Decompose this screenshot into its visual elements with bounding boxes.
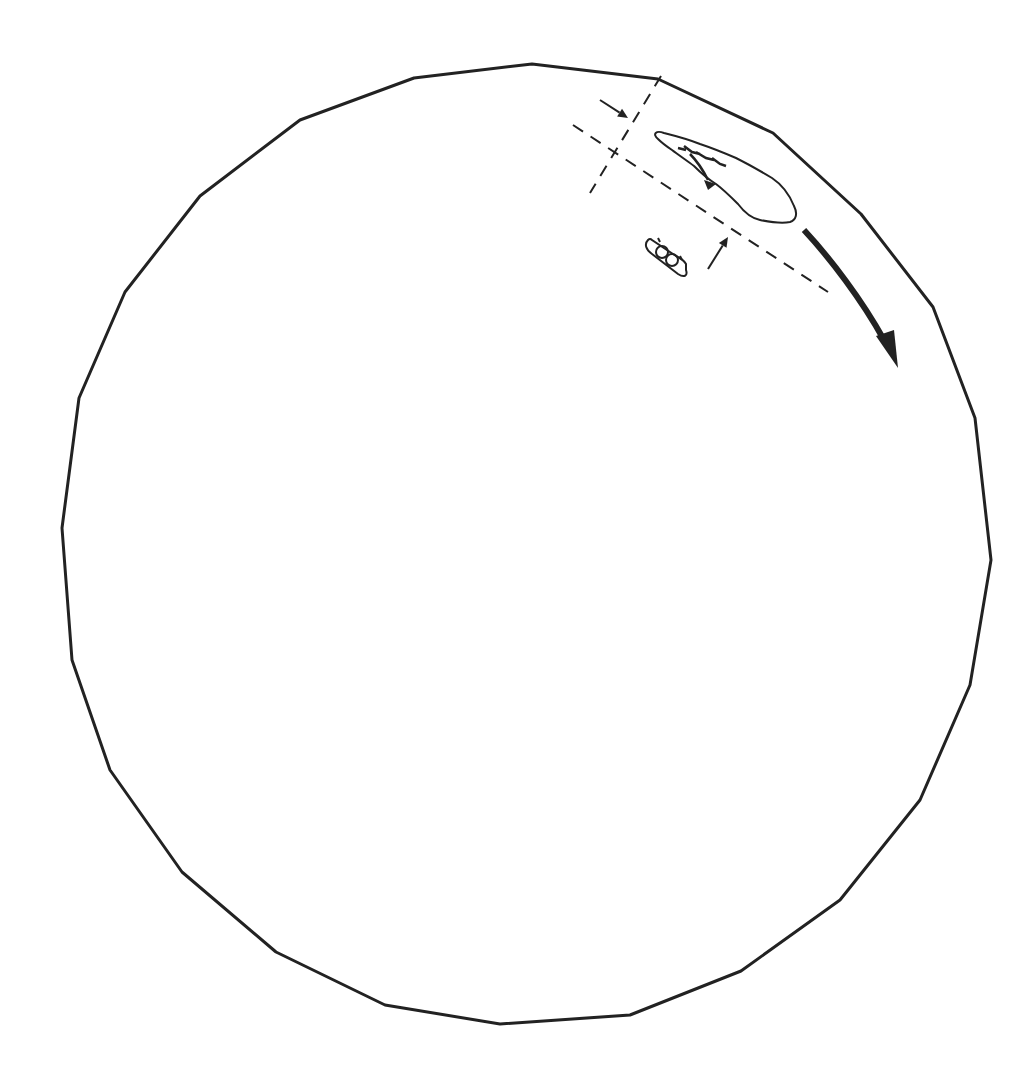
rotation-direction-arrow: [804, 230, 884, 340]
capsule-tick: [658, 238, 660, 242]
arrowhead-icon: [617, 109, 628, 118]
arrowhead-icon: [876, 330, 898, 368]
capsule-circle: [666, 254, 678, 266]
circular-boundary: [62, 64, 991, 1024]
elongated-outline: [655, 132, 796, 223]
diagram-canvas: [0, 0, 1019, 1089]
arrowhead-icon: [719, 237, 728, 248]
squiggle-arrowhead-icon: [704, 180, 716, 190]
arrow-inward-upper: [600, 100, 628, 118]
diagram-stage: [0, 0, 1019, 1089]
arrow-inward-lower: [708, 237, 728, 269]
capsule-object: [646, 238, 687, 276]
